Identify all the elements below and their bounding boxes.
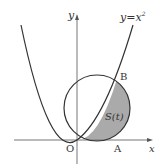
origin-label: O bbox=[66, 143, 74, 154]
region-label: S(t) bbox=[105, 111, 124, 122]
point-b-label: B bbox=[120, 71, 127, 82]
shaded-region bbox=[77, 60, 140, 150]
figure: y y=x2 B S(t) O A x bbox=[0, 0, 163, 166]
y-axis-label: y bbox=[67, 9, 75, 22]
diagram-canvas: y y=x2 B S(t) O A x bbox=[0, 0, 163, 166]
y-axis-arrow-icon bbox=[75, 14, 79, 20]
curve-label: y=x2 bbox=[119, 10, 146, 24]
x-axis-label: x bbox=[149, 143, 155, 154]
point-a-label: A bbox=[113, 143, 122, 154]
x-axis-arrow-icon bbox=[147, 138, 153, 142]
